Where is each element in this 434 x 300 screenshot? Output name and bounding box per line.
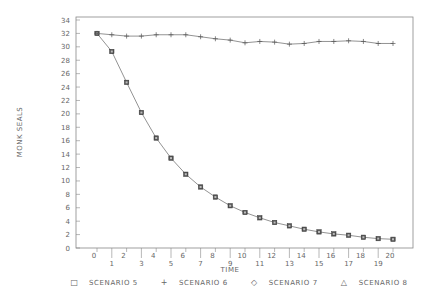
x-tick-label: 19 [374,260,383,268]
plus-marker-icon [124,34,129,39]
y-axis: 0246810121416182022242628303234 [61,17,80,253]
marker-inner [392,238,394,240]
legend: □ SCENARIO 5 + SCENARIO 6 ◇ SCENARIO 7 △… [70,278,408,287]
plus-marker-icon [361,39,366,44]
x-tick-label: 7 [198,260,202,268]
plus-marker-icon [257,39,262,44]
legend-item-scenario-6: + SCENARIO 6 [160,278,228,287]
x-axis: 01234567891011121314151617181920 [92,248,395,268]
marker-inner [303,228,305,230]
x-tick-label: 0 [92,252,96,260]
triangle-marker-icon: △ [340,278,349,287]
x-tick-label: 14 [297,252,306,260]
y-tick-label: 12 [61,164,70,172]
series-line [97,33,393,239]
marker-inner [318,231,320,233]
y-tick-label: 20 [61,110,70,118]
marker-inner [170,157,172,159]
y-tick-label: 0 [66,245,70,253]
series-group [95,31,396,242]
y-tick-label: 24 [61,84,70,92]
plus-marker-icon [154,32,159,37]
y-tick-label: 32 [61,30,70,38]
y-tick-label: 18 [61,124,70,132]
x-axis-label: TIME [220,266,240,274]
plus-marker-icon [317,39,322,44]
x-tick-label: 13 [285,260,294,268]
marker-inner [214,196,216,198]
x-tick-label: 4 [151,252,156,260]
plus-marker-icon [198,34,203,39]
plus-marker-icon [139,34,144,39]
line-chart: 0246810121416182022242628303234 01234567… [0,0,434,300]
y-tick-label: 16 [61,137,70,145]
marker-inner [362,236,364,238]
x-tick-label: 3 [139,260,143,268]
x-tick-label: 15 [315,260,324,268]
plus-marker-icon [243,40,248,45]
x-tick-label: 16 [326,252,335,260]
plus-marker-icon [331,39,336,44]
plus-marker-icon: + [160,278,169,287]
y-tick-label: 8 [66,191,70,199]
marker-inner [259,217,261,219]
x-tick-label: 5 [169,260,173,268]
plus-marker-icon [213,36,218,41]
legend-label: SCENARIO 8 [359,279,408,287]
y-tick-label: 2 [66,231,70,239]
plus-marker-icon [183,32,188,37]
marker-inner [288,225,290,227]
y-tick-label: 30 [61,43,70,51]
plus-marker-icon [346,38,351,43]
legend-item-scenario-5: □ SCENARIO 5 [70,278,138,287]
plus-marker-icon [302,41,307,46]
legend-label: SCENARIO 6 [179,279,228,287]
marker-inner [111,51,113,53]
x-tick-label: 11 [255,260,264,268]
legend-item-scenario-8: △ SCENARIO 8 [340,278,408,287]
plus-marker-icon [391,41,396,46]
marker-inner [126,81,128,83]
x-tick-label: 1 [110,260,114,268]
marker-inner [185,173,187,175]
y-tick-label: 10 [61,177,70,185]
marker-inner [140,112,142,114]
plus-marker-icon [287,42,292,47]
diamond-marker-icon: ◇ [250,278,259,287]
marker-inner [274,222,276,224]
plus-marker-icon [228,38,233,43]
marker-inner [229,205,231,207]
marker-inner [200,186,202,188]
plus-marker-icon [109,32,114,37]
legend-label: SCENARIO 7 [269,279,318,287]
marker-inner [155,137,157,139]
x-tick-label: 6 [181,252,186,260]
plus-marker-icon [272,40,277,45]
x-tick-label: 8 [210,252,214,260]
y-tick-label: 34 [61,17,70,25]
x-tick-label: 18 [356,252,365,260]
x-tick-label: 10 [238,252,247,260]
legend-item-scenario-7: ◇ SCENARIO 7 [250,278,318,287]
y-tick-label: 28 [61,57,70,65]
legend-label: SCENARIO 5 [89,279,138,287]
y-tick-label: 6 [66,204,71,212]
y-tick-label: 4 [66,218,71,226]
marker-inner [348,234,350,236]
y-tick-label: 14 [61,151,70,159]
marker-inner [377,238,379,240]
marker-inner [244,211,246,213]
y-axis-label: MONK SEALS [16,107,24,158]
x-tick-label: 20 [386,252,395,260]
x-tick-label: 2 [121,252,125,260]
y-tick-label: 26 [61,70,70,78]
y-tick-label: 22 [61,97,70,105]
x-tick-label: 17 [344,260,353,268]
plus-marker-icon [376,41,381,46]
marker-inner [333,233,335,235]
plus-marker-icon [169,32,174,37]
square-marker-icon: □ [70,278,79,287]
x-tick-label: 12 [267,252,276,260]
